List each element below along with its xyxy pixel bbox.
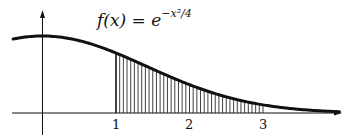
tick-label-2: 2: [185, 117, 193, 132]
tick-label-3: 3: [259, 117, 267, 132]
curve: [13, 36, 339, 112]
gaussian-area-diagram: f(x) = e−x²/4 1 2 3: [0, 0, 354, 138]
tick-label-1: 1: [112, 117, 120, 132]
function-label: f(x) = e−x²/4: [97, 9, 192, 30]
